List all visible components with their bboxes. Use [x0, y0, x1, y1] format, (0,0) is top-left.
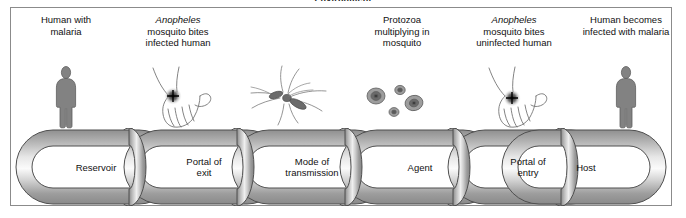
stage-reservoir-line1: Human with: [10, 14, 122, 26]
stage-host-line2: infected with malaria: [570, 26, 682, 38]
stage-agent-line2: multiplying in: [346, 26, 458, 38]
stage-portal-of-entry: Anopheles mosquito bites uninfected huma…: [458, 7, 570, 131]
stage-mode-of-transmission: [234, 7, 346, 131]
protozoa-cells-icon: [348, 65, 456, 129]
stage-portal-of-entry-species: Anopheles: [458, 14, 570, 26]
stage-portal-of-exit-line2: infected human: [122, 37, 234, 49]
infection-chain: Reservoir Portal of exit Mode of transmi…: [10, 128, 672, 206]
stage-portal-of-entry-caption: Anopheles mosquito bites uninfected huma…: [458, 14, 570, 49]
human-figure-icon: [572, 65, 680, 129]
mosquito-icon: [236, 65, 344, 129]
stage-host-caption: Human becomes infected with malaria: [570, 14, 682, 37]
stage-agent: Protozoa multiplying in mosquito: [346, 7, 458, 131]
hand-with-bite-icon: [460, 65, 568, 129]
stage-reservoir-line2: malaria: [10, 26, 122, 38]
stage-row: Human with malaria Anopheles mosquito bi…: [10, 7, 672, 131]
hand-with-bite-icon: [124, 65, 232, 129]
stage-portal-of-exit-caption: Anopheles mosquito bites infected human: [122, 14, 234, 49]
stage-agent-line1: Protozoa: [346, 14, 458, 26]
human-figure-icon: [12, 65, 120, 129]
stage-portal-of-entry-line1: mosquito bites: [458, 26, 570, 38]
stage-agent-line3: mosquito: [346, 37, 458, 49]
stage-reservoir: Human with malaria: [10, 7, 122, 131]
stage-host-line1: Human becomes: [570, 14, 682, 26]
stage-portal-of-entry-line2: uninfected human: [458, 37, 570, 49]
stage-reservoir-caption: Human with malaria: [10, 14, 122, 37]
stage-portal-of-exit-species: Anopheles: [122, 14, 234, 26]
chain-of-infection-figure: Environment Human with malaria Anophe: [0, 0, 686, 218]
environment-caption: Environment: [0, 0, 686, 1]
stage-portal-of-exit-line1: mosquito bites: [122, 26, 234, 38]
stage-portal-of-exit: Anopheles mosquito bites infected human: [122, 7, 234, 131]
stage-host: Human becomes infected with malaria: [570, 7, 682, 131]
stage-agent-caption: Protozoa multiplying in mosquito: [346, 14, 458, 49]
